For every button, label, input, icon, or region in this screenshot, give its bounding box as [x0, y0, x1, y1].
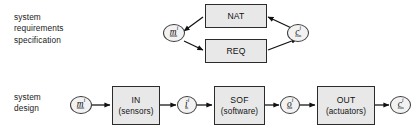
box-in-sublabel: (sensors): [118, 106, 153, 117]
node-c-requirements[interactable]: cicon: [287, 24, 309, 42]
box-sof-label: SOF: [230, 95, 248, 106]
variable-subscript: in: [185, 103, 188, 112]
variable-subscript: con: [398, 103, 404, 112]
variable-subscript: mon: [170, 31, 177, 40]
variable-subscript: out: [287, 103, 292, 112]
node-o-design[interactable]: oiout: [280, 96, 300, 114]
design-row-caption: system design: [14, 92, 41, 115]
node-i-design[interactable]: iiin: [177, 96, 197, 114]
box-sof[interactable]: SOF (software): [214, 86, 265, 125]
caption-line: design: [14, 103, 41, 114]
box-nat-label: NAT: [227, 11, 244, 22]
variable-c-des: cicon: [398, 100, 404, 109]
box-req-label: REQ: [226, 46, 245, 57]
variable-superscript: i: [84, 97, 86, 103]
requirements-row-caption: system requirements specification: [14, 12, 64, 46]
box-nat[interactable]: NAT: [205, 4, 267, 28]
diagram-canvas: system requirements specification system…: [0, 0, 418, 133]
box-sof-sublabel: (software): [221, 106, 258, 117]
box-in-label: IN: [132, 95, 141, 106]
variable-superscript: i: [402, 97, 404, 103]
box-req[interactable]: REQ: [205, 39, 267, 63]
edge-nat-to-m: [184, 17, 203, 31]
edge-m-to-req: [184, 41, 203, 50]
box-out-sublabel: (actuators): [326, 106, 366, 117]
variable-i-des: iiin: [185, 100, 189, 109]
caption-line: system: [14, 92, 41, 103]
variable-superscript: i: [300, 25, 302, 31]
variable-m-req: mimon: [170, 28, 178, 37]
node-m-requirements[interactable]: mimon: [163, 24, 185, 42]
box-out[interactable]: OUT (actuators): [317, 86, 375, 125]
box-out-label: OUT: [337, 95, 356, 106]
box-in[interactable]: IN (sensors): [112, 86, 160, 125]
node-c-design[interactable]: cicon: [390, 96, 411, 114]
node-m-design[interactable]: mimon: [70, 96, 92, 114]
variable-superscript: i: [177, 25, 179, 31]
variable-superscript: i: [292, 97, 294, 103]
caption-line: requirements: [14, 23, 64, 34]
variable-m-des: mimon: [77, 100, 85, 109]
variable-o-des: oiout: [287, 100, 293, 109]
caption-line: specification: [14, 35, 64, 46]
variable-subscript: con: [295, 31, 301, 40]
variable-subscript: mon: [77, 103, 84, 112]
variable-c-req: cicon: [295, 28, 301, 37]
variable-superscript: i: [188, 97, 190, 103]
caption-line: system: [14, 12, 64, 23]
